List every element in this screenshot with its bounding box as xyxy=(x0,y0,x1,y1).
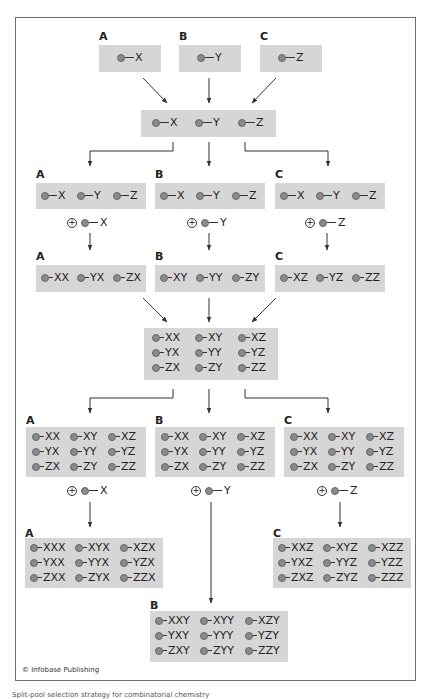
sequence-label: XZ xyxy=(250,430,265,443)
sequence-label: ZY xyxy=(245,271,259,284)
stage2-item: X xyxy=(152,116,178,129)
linker-line xyxy=(38,577,42,578)
linker-line xyxy=(374,466,378,467)
bead-icon xyxy=(368,544,376,552)
bead-icon xyxy=(155,647,163,655)
linker-line xyxy=(286,562,290,563)
stage6-item: YX xyxy=(161,445,188,458)
stage6-item: YX xyxy=(290,445,317,458)
sequence-label: ZYZ xyxy=(336,571,358,584)
bead-icon xyxy=(32,448,40,456)
bead-icon xyxy=(328,433,336,441)
stage7-item: XXZ xyxy=(278,541,314,554)
bead-icon xyxy=(195,364,203,372)
sequence-label: ZX xyxy=(126,271,141,284)
stage4-item: XX xyxy=(41,271,69,284)
linker-line xyxy=(125,57,134,58)
sequence-label: YZZ xyxy=(381,556,403,569)
stage7-item: ZXX xyxy=(30,571,66,584)
bead-icon xyxy=(70,448,78,456)
bead-icon xyxy=(205,487,213,495)
arrow-c-to-pool xyxy=(252,78,276,103)
linker-line xyxy=(374,436,378,437)
sequence-label: YZ xyxy=(121,445,135,458)
sequence-label: Z xyxy=(296,51,304,64)
sequence-label: ZZ xyxy=(121,460,136,473)
sequence-label: YZ xyxy=(250,445,264,458)
bead-icon xyxy=(232,192,240,200)
bead-icon xyxy=(316,274,324,282)
linker-line xyxy=(331,547,335,548)
monomer-label: X xyxy=(100,484,108,497)
bead-icon xyxy=(245,632,253,640)
sequence-label: X xyxy=(177,189,185,202)
bead-icon xyxy=(237,463,245,471)
bead-icon xyxy=(280,192,288,200)
sequence-label: ZY xyxy=(83,460,97,473)
sequence-label: XXZ xyxy=(291,541,314,554)
copyright-notice: © Infobase Publishing xyxy=(22,666,99,674)
sequence-label: XZ xyxy=(293,271,308,284)
linker-line xyxy=(128,577,132,578)
sequence-label: XY xyxy=(83,430,97,443)
add-monomer2-a: +X xyxy=(67,484,108,497)
linker-line xyxy=(376,577,380,578)
sequence-label: XX xyxy=(45,430,60,443)
linker-line xyxy=(374,451,378,452)
linker-line xyxy=(204,277,208,278)
stage7-item: ZZY xyxy=(245,644,280,657)
sequence-label: Z xyxy=(249,189,257,202)
bead-icon xyxy=(238,334,246,342)
bead-icon xyxy=(197,54,205,62)
sequence-label: XXY xyxy=(168,614,190,627)
sequence-label: ZX xyxy=(165,361,180,374)
bead-icon xyxy=(75,559,83,567)
bead-icon xyxy=(201,219,209,227)
stage6-item: ZY xyxy=(328,460,355,473)
stage3-item: Z xyxy=(352,189,377,202)
linker-line xyxy=(331,562,335,563)
add-monomer-b: +Y xyxy=(187,216,227,229)
bead-icon xyxy=(113,192,121,200)
linker-line xyxy=(207,451,211,452)
linker-line xyxy=(38,562,42,563)
sequence-label: YXX xyxy=(43,556,65,569)
linker-line xyxy=(116,436,120,437)
linker-line xyxy=(163,620,167,621)
stage1-item: X xyxy=(117,51,143,64)
bead-icon xyxy=(323,559,331,567)
linker-line xyxy=(85,195,93,196)
sequence-label: ZZY xyxy=(258,644,280,657)
stage6-item: XZ xyxy=(108,430,136,443)
linker-line xyxy=(49,277,53,278)
linker-line xyxy=(253,650,257,651)
linker-line xyxy=(245,451,249,452)
arrow-a-to-pool2 xyxy=(143,298,167,322)
linker-line xyxy=(163,650,167,651)
linker-line xyxy=(49,195,57,196)
stage7-item: XYZ xyxy=(323,541,358,554)
linker-line xyxy=(207,436,211,437)
sequence-label: YZ xyxy=(329,271,343,284)
sequence-label: XZ xyxy=(379,430,394,443)
bead-icon xyxy=(32,433,40,441)
bead-icon xyxy=(75,544,83,552)
stage6-item: YZ xyxy=(366,445,393,458)
linker-line xyxy=(160,122,169,123)
stage5-item: XZ xyxy=(238,331,266,344)
sequence-label: YY xyxy=(208,346,221,359)
stage7-item: ZXZ xyxy=(278,571,314,584)
sequence-label: ZZ xyxy=(250,460,265,473)
stage3-item: X xyxy=(41,189,66,202)
stage6-item: ZX xyxy=(290,460,318,473)
linker-line xyxy=(360,195,368,196)
linker-line xyxy=(246,352,250,353)
bead-icon xyxy=(366,433,374,441)
bead-icon xyxy=(328,448,336,456)
sequence-label: ZXY xyxy=(168,644,190,657)
sequence-label: YXY xyxy=(168,629,189,642)
sequence-label: YXZ xyxy=(291,556,313,569)
sequence-label: XYY xyxy=(213,614,234,627)
bead-icon xyxy=(278,544,286,552)
linker-line xyxy=(169,451,173,452)
